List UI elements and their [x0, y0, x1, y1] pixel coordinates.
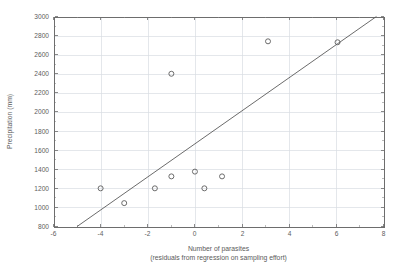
y-tick-label: 1400: [34, 166, 49, 173]
x-tick-label: 8: [382, 230, 386, 237]
regression-line-path: [77, 17, 376, 227]
y-axis-ticks: 8001000120014001600180020002200240026002…: [34, 13, 383, 230]
x-tick-label: 6: [335, 230, 339, 237]
regression-line: [77, 17, 376, 227]
plot-border: [54, 17, 384, 227]
y-tick-label: 2600: [34, 51, 49, 58]
data-point-marker: [122, 201, 127, 206]
y-tick-label: 2000: [34, 108, 49, 115]
scatter-plot-figure: 8001000120014001600180020002200240026002…: [0, 0, 404, 273]
y-tick-label: 2400: [34, 70, 49, 77]
y-tick-label: 800: [38, 223, 49, 230]
y-tick-label: 2800: [34, 32, 49, 39]
plot-frame: [54, 17, 384, 227]
y-axis-title: Precipitation (mm): [6, 94, 14, 149]
y-tick-label: 1800: [34, 128, 49, 135]
x-axis-title: Number of parasites: [188, 245, 250, 253]
y-tick-label: 1200: [34, 185, 49, 192]
x-tick-label: -2: [145, 230, 151, 237]
x-tick-label: -6: [51, 230, 57, 237]
y-tick-label: 1600: [34, 147, 49, 154]
y-tick-label: 2200: [34, 89, 49, 96]
y-tick-label: 1000: [34, 204, 49, 211]
x-axis-ticks: -6-4-202468: [51, 17, 386, 238]
data-point-marker: [192, 169, 197, 174]
data-point-marker: [220, 174, 225, 179]
data-point-marker: [169, 71, 174, 76]
y-tick-label: 3000: [34, 13, 49, 20]
x-tick-label: 0: [193, 230, 197, 237]
data-point-marker: [266, 39, 271, 44]
x-tick-label: 2: [241, 230, 245, 237]
grid-lines: [54, 17, 384, 227]
data-point-marker: [169, 174, 174, 179]
x-tick-label: 4: [288, 230, 292, 237]
data-points: [98, 39, 340, 206]
chart-canvas: 8001000120014001600180020002200240026002…: [0, 0, 404, 273]
x-tick-label: -4: [98, 230, 104, 237]
x-axis-subtitle: (residuals from regression on sampling e…: [150, 254, 287, 262]
